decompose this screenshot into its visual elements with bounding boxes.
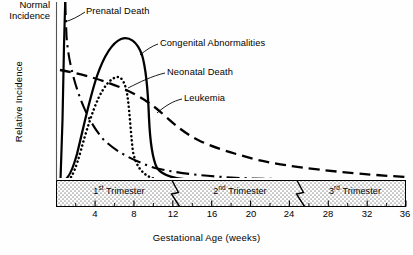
leader-lines — [65, 12, 183, 113]
x-tick-label-32: 32 — [355, 208, 379, 219]
trimester-label-1: 1st Trimester — [93, 186, 144, 196]
curve-label-neonatal-death: Neonatal Death — [167, 67, 233, 77]
trimester-suffix-1: st — [98, 184, 103, 191]
x-tick-label-28: 28 — [316, 208, 340, 219]
x-tick-label-24: 24 — [277, 208, 301, 219]
trimester-word-2: Trimester — [228, 186, 267, 196]
trimester-label-3: 3rd Trimester — [329, 186, 381, 196]
leader-prenatal-death — [65, 12, 86, 22]
curve-label-congenital-abnormalities: Congenital Abnormalities — [160, 38, 265, 48]
trimester-suffix-3: rd — [334, 184, 340, 191]
curve-label-leukemia: Leukemia — [184, 93, 225, 103]
x-tick-label-12: 12 — [161, 208, 185, 219]
y-axis-title: Relative Incidence — [13, 42, 24, 162]
x-tick-label-4: 4 — [83, 208, 107, 219]
series-leukemia — [60, 70, 406, 177]
series-prenatal-death-spike — [61, 2, 66, 180]
trimester-word-1: Trimester — [106, 186, 145, 196]
x-tick-label-16: 16 — [200, 208, 224, 219]
gestational-risk-chart: Relative Incidence Normal Incidence Gest… — [0, 0, 413, 255]
series-congenital-abnormalities — [64, 38, 406, 181]
trimester-label-2: 2nd Trimester — [213, 186, 266, 196]
curve-label-prenatal-death: Prenatal Death — [86, 6, 149, 16]
leader-congenital-abnormalities — [140, 44, 158, 55]
trimester-word-3: Trimester — [342, 186, 381, 196]
x-tick-label-8: 8 — [122, 208, 146, 219]
x-tick-label-20: 20 — [239, 208, 263, 219]
trimester-suffix-2: nd — [218, 184, 225, 191]
x-tick-label-36: 36 — [393, 208, 413, 219]
x-axis-title: Gestational Age (weeks) — [0, 232, 413, 243]
